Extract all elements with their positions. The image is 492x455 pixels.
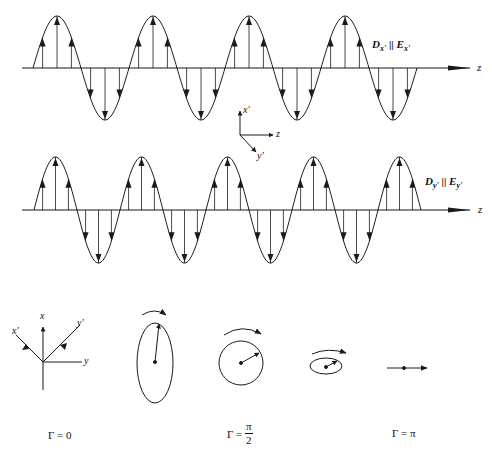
vector-arrowhead	[311, 158, 317, 166]
z-axis-arrowhead	[448, 208, 470, 213]
rotation-arrow-icon	[142, 311, 166, 315]
vector-arrowhead	[194, 232, 200, 240]
e-subscript: y'	[456, 181, 462, 190]
d-subscript: y'	[433, 181, 439, 190]
vector-arrowhead	[169, 232, 175, 240]
vector-arrowhead	[54, 17, 60, 25]
vector-arrowhead	[384, 180, 390, 188]
gamma-half-pi-label: Γ = π 2	[227, 421, 253, 446]
bottom-wave-label: Dy' || Ey'	[425, 175, 462, 190]
vector-arrowhead	[280, 232, 286, 240]
lab-x-label: x	[40, 310, 44, 321]
lab-y-prime-label: y'	[77, 317, 84, 328]
triad-x-prime-label: x'	[243, 104, 250, 115]
vector-arrowhead	[65, 180, 71, 188]
gamma-prefix: Γ =	[227, 428, 242, 440]
vector-arrowhead	[298, 180, 304, 188]
vector-arrowhead	[342, 17, 348, 25]
parallel-symbol: ||	[441, 175, 446, 187]
e-subscript: x'	[404, 44, 410, 53]
fraction-denominator: 2	[246, 434, 252, 446]
vector-arrowhead	[354, 254, 360, 262]
polarization-diagram	[0, 0, 492, 455]
vector-arrowhead	[294, 111, 300, 119]
coordinate-triad	[240, 111, 273, 152]
y-prime-axis-arrow	[240, 135, 256, 152]
bottom-z-label: z	[478, 203, 482, 215]
vector-arrowhead	[53, 158, 59, 166]
vector-arrowhead	[397, 158, 403, 166]
vector-arrowhead	[341, 232, 347, 240]
vector-arrowhead	[246, 17, 252, 25]
vector-arrowhead	[182, 254, 188, 262]
vector-arrowhead	[108, 232, 114, 240]
e-symbol: E	[397, 38, 404, 50]
vector-arrowhead	[151, 180, 157, 188]
lab-y-label: y	[84, 355, 88, 366]
vector-arrowhead	[255, 232, 261, 240]
gamma-pi-label: Γ = π	[392, 427, 416, 439]
state-circle	[219, 329, 263, 385]
triad-z-label: z	[276, 128, 280, 139]
vector-arrowhead	[390, 111, 396, 119]
vector-arrowhead	[237, 180, 243, 188]
vector-arrowhead	[409, 180, 415, 188]
vector-arrowhead	[150, 17, 156, 25]
bottom-wave-y-component	[22, 157, 470, 263]
z-axis-arrowhead	[448, 66, 470, 71]
d-symbol: D	[372, 38, 380, 50]
vector-arrowhead	[268, 254, 274, 262]
triad-y-prime-label: y'	[257, 150, 264, 161]
y-prime-axis-line	[43, 325, 80, 362]
vector-arrowhead	[198, 111, 204, 119]
vector-arrowhead	[96, 254, 102, 262]
lab-axes	[16, 325, 82, 390]
parallel-symbol: ||	[389, 38, 394, 50]
x-prime-axis-line	[16, 335, 43, 362]
vector-arrowhead	[83, 232, 89, 240]
state-horizontal-ellipse	[310, 350, 346, 374]
vector-arrowhead	[366, 232, 372, 240]
vector-arrowhead	[323, 180, 329, 188]
d-symbol: D	[425, 175, 433, 187]
state-vertical-ellipse	[137, 311, 173, 403]
vector-arrowhead	[225, 158, 231, 166]
vector-arrowhead	[102, 111, 108, 119]
vector-arrowhead	[212, 180, 218, 188]
fraction-numerator: π	[245, 421, 253, 434]
pi-over-two-fraction: π 2	[245, 421, 253, 446]
vector-arrowhead	[40, 180, 46, 188]
d-subscript: x'	[380, 44, 386, 53]
rotation-arrow-icon	[312, 350, 346, 354]
vector-arrowhead	[139, 158, 145, 166]
gamma-zero-label: Γ = 0	[48, 429, 72, 441]
lab-x-prime-label: x'	[12, 325, 19, 336]
top-wave-label: Dx' || Ex'	[372, 38, 410, 53]
state-linear	[387, 367, 427, 370]
rotation-arrow-icon	[224, 329, 261, 335]
top-z-label: z	[477, 61, 481, 73]
vector-arrowhead	[126, 180, 132, 188]
